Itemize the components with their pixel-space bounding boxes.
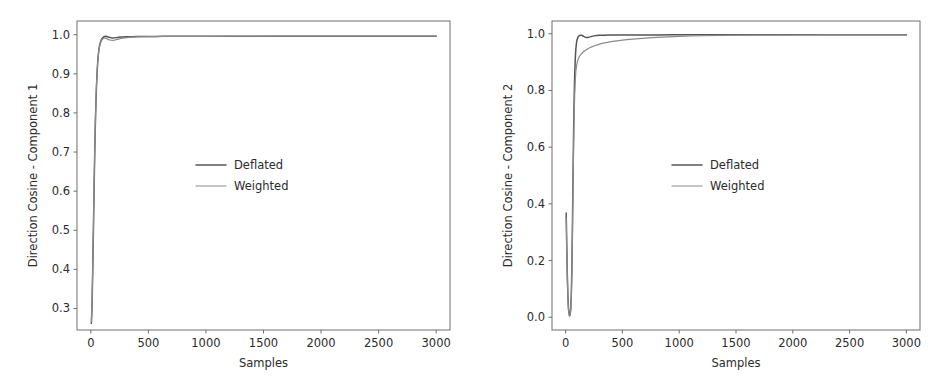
legend-label-deflated: Deflated bbox=[234, 158, 283, 172]
chart-panel-component-2: 0500100015002000250030000.00.20.40.60.81… bbox=[474, 0, 948, 384]
y-tick-label: 0.4 bbox=[527, 197, 545, 211]
figure-root: 0500100015002000250030000.30.40.50.60.70… bbox=[0, 0, 949, 384]
x-tick-label: 1000 bbox=[191, 336, 220, 350]
x-tick-label: 2000 bbox=[778, 336, 807, 350]
x-tick-label: 2000 bbox=[306, 336, 335, 350]
x-axis-title: Samples bbox=[711, 356, 760, 370]
x-tick-label: 0 bbox=[87, 336, 94, 350]
y-tick-label: 0.7 bbox=[52, 145, 70, 159]
legend-label-deflated: Deflated bbox=[710, 158, 759, 172]
y-axis-title: Direction Cosine - Component 1 bbox=[26, 84, 40, 267]
x-tick-label: 3000 bbox=[892, 336, 921, 350]
x-tick-label: 2500 bbox=[364, 336, 393, 350]
legend-label-weighted: Weighted bbox=[710, 179, 764, 193]
y-tick-label: 0.3 bbox=[52, 301, 70, 315]
x-tick-label: 500 bbox=[137, 336, 159, 350]
y-tick-label: 0.9 bbox=[52, 67, 70, 81]
chart-svg-component-1: 0500100015002000250030000.30.40.50.60.70… bbox=[0, 0, 474, 384]
x-tick-label: 2500 bbox=[835, 336, 864, 350]
y-axis-title: Direction Cosine - Component 2 bbox=[501, 84, 515, 267]
y-tick-label: 0.6 bbox=[52, 184, 70, 198]
x-tick-label: 1500 bbox=[721, 336, 750, 350]
x-axis-title: Samples bbox=[239, 356, 288, 370]
x-tick-label: 1500 bbox=[249, 336, 278, 350]
legend-label-weighted: Weighted bbox=[234, 179, 288, 193]
y-tick-label: 0.8 bbox=[52, 106, 70, 120]
y-tick-label: 0.5 bbox=[52, 223, 70, 237]
y-tick-label: 1.0 bbox=[527, 27, 545, 41]
x-tick-label: 500 bbox=[611, 336, 633, 350]
y-tick-label: 0.6 bbox=[527, 140, 545, 154]
y-tick-label: 0.0 bbox=[527, 310, 545, 324]
x-tick-label: 1000 bbox=[665, 336, 694, 350]
x-tick-label: 3000 bbox=[422, 336, 451, 350]
y-tick-label: 0.4 bbox=[52, 262, 70, 276]
y-tick-label: 1.0 bbox=[52, 28, 70, 42]
chart-panel-component-1: 0500100015002000250030000.30.40.50.60.70… bbox=[0, 0, 474, 384]
x-tick-label: 0 bbox=[562, 336, 569, 350]
y-tick-label: 0.8 bbox=[527, 83, 545, 97]
y-tick-label: 0.2 bbox=[527, 254, 545, 268]
chart-svg-component-2: 0500100015002000250030000.00.20.40.60.81… bbox=[474, 0, 949, 384]
